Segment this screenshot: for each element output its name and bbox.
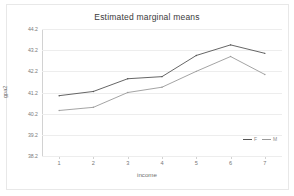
data-point bbox=[264, 74, 265, 75]
legend-entry[interactable]: M bbox=[262, 136, 277, 142]
data-point bbox=[264, 53, 265, 54]
chart-title: Estimated marginal means bbox=[0, 12, 294, 22]
x-axis-tick-label: 4 bbox=[152, 160, 172, 166]
x-axis-title: income bbox=[0, 171, 294, 178]
legend-label: F bbox=[254, 136, 257, 142]
y-axis-tick-label: 43.2 bbox=[0, 47, 38, 53]
data-point bbox=[196, 71, 197, 72]
y-axis-tick-label: 42.2 bbox=[0, 68, 38, 74]
series-line-m bbox=[59, 57, 265, 111]
data-point bbox=[230, 44, 231, 45]
y-axis-tick-label: 41.2 bbox=[0, 90, 38, 96]
data-point bbox=[58, 110, 59, 111]
data-point bbox=[127, 78, 128, 79]
x-axis-tick-label: 6 bbox=[221, 160, 241, 166]
legend-label: M bbox=[273, 136, 277, 142]
data-point bbox=[196, 55, 197, 56]
y-axis-tick-label: 39.2 bbox=[0, 132, 38, 138]
legend-swatch-icon bbox=[262, 139, 271, 140]
chart-container: Estimated marginal means gpa2 income 44.… bbox=[0, 0, 294, 196]
x-axis-tick-label: 2 bbox=[83, 160, 103, 166]
x-axis-tick-label: 5 bbox=[186, 160, 206, 166]
y-axis-tick-label: 44.2 bbox=[0, 26, 38, 32]
gridline bbox=[42, 156, 282, 157]
data-point bbox=[161, 76, 162, 77]
x-axis-tick-label: 7 bbox=[255, 160, 275, 166]
legend-swatch-icon bbox=[243, 139, 252, 140]
data-point bbox=[127, 92, 128, 93]
data-point bbox=[230, 56, 231, 57]
y-axis-tick-label: 38.2 bbox=[0, 153, 38, 159]
data-point bbox=[93, 91, 94, 92]
data-point bbox=[58, 95, 59, 96]
y-axis-tick-label: 40.2 bbox=[0, 111, 38, 117]
x-axis-tick-label: 1 bbox=[49, 160, 69, 166]
data-point bbox=[93, 107, 94, 108]
legend-entry[interactable]: F bbox=[243, 136, 257, 142]
chart-legend: FM bbox=[243, 136, 277, 142]
series-line-f bbox=[59, 45, 265, 96]
data-point bbox=[161, 87, 162, 88]
x-axis-tick-label: 3 bbox=[118, 160, 138, 166]
